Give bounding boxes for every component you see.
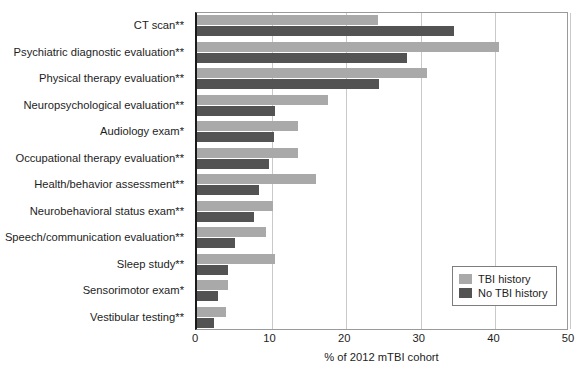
category-label: Physical therapy evaluation**	[39, 65, 184, 92]
bar-group	[197, 66, 567, 93]
bar-group	[197, 225, 567, 252]
x-axis-title: % of 2012 mTBI cohort	[195, 351, 568, 363]
bar	[197, 148, 298, 158]
bar	[197, 15, 378, 25]
x-tick-label: 40	[487, 332, 499, 344]
bar	[197, 42, 499, 52]
bar	[197, 95, 328, 105]
category-label: Neurobehavioral status exam**	[30, 198, 184, 225]
category-label: Occupational therapy evaluation**	[15, 145, 184, 172]
bar	[197, 174, 316, 184]
bar-group	[197, 199, 567, 226]
bar	[197, 307, 226, 317]
category-label: Vestibular testing**	[90, 304, 184, 331]
bar	[197, 79, 379, 89]
category-label: Psychiatric diagnostic evaluation**	[14, 39, 184, 66]
category-label: Speech/communication evaluation**	[5, 224, 184, 251]
bar	[197, 254, 275, 264]
bar	[197, 159, 269, 169]
x-tick-label: 0	[192, 332, 198, 344]
legend-label: TBI history	[478, 273, 531, 285]
legend-item-no-tbi-history: No TBI history	[459, 286, 548, 300]
x-axis-ticks: 01020304050	[195, 330, 568, 336]
legend-swatch-icon	[459, 274, 472, 284]
bar	[197, 185, 259, 195]
bar-group	[197, 93, 567, 120]
bar	[197, 106, 275, 116]
bar	[197, 227, 266, 237]
legend-label: No TBI history	[478, 287, 548, 299]
gridline	[570, 13, 571, 329]
bar	[197, 68, 427, 78]
bar	[197, 201, 273, 211]
bar	[197, 318, 214, 328]
bar-group	[197, 172, 567, 199]
bar	[197, 121, 298, 131]
bar	[197, 26, 454, 36]
bar-group	[197, 146, 567, 173]
bar	[197, 265, 228, 275]
category-label: Sleep study**	[117, 251, 184, 278]
category-label: Health/behavior assessment**	[34, 171, 184, 198]
category-label: Audiology exam*	[100, 118, 184, 145]
bar	[197, 132, 274, 142]
bar	[197, 291, 218, 301]
x-tick-label: 20	[338, 332, 350, 344]
bar	[197, 280, 228, 290]
x-tick-label: 50	[562, 332, 574, 344]
x-tick-label: 30	[413, 332, 425, 344]
chart-legend: TBI history No TBI history	[452, 266, 557, 306]
bar-group	[197, 13, 567, 40]
category-label: CT scan**	[134, 12, 184, 39]
legend-swatch-icon	[459, 288, 472, 298]
category-label: Sensorimotor exam*	[83, 277, 184, 304]
bar-group	[197, 305, 567, 332]
bar	[197, 212, 254, 222]
category-axis-labels: CT scan**Psychiatric diagnostic evaluati…	[0, 12, 190, 330]
bar	[197, 53, 407, 63]
x-tick-label: 10	[263, 332, 275, 344]
bar-group	[197, 119, 567, 146]
bar	[197, 238, 235, 248]
bar-group	[197, 40, 567, 67]
horizontal-bar-chart: CT scan**Psychiatric diagnostic evaluati…	[0, 0, 582, 372]
category-label: Neuropsychological evaluation**	[24, 92, 184, 119]
legend-item-tbi-history: TBI history	[459, 272, 548, 286]
